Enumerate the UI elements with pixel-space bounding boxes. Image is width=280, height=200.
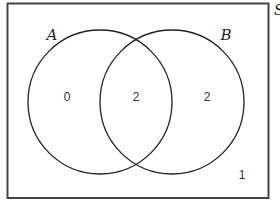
venn-diagram: S A B 0 2 2 1 (0, 0, 280, 200)
universal-set-label: S (274, 1, 280, 19)
region-only-a-value: 0 (64, 90, 71, 104)
set-a-label: A (45, 26, 58, 44)
region-a-and-b-value: 2 (133, 90, 140, 104)
region-outside-value: 1 (239, 168, 246, 182)
region-only-b-value: 2 (204, 90, 211, 104)
set-b-label: B (219, 26, 231, 44)
